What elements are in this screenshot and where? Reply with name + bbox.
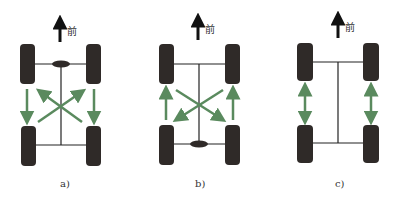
front-label: 前 [345,19,355,34]
rotation-diagram-c [260,0,397,201]
front-label: 前 [67,23,77,38]
caption-b: b) [195,178,205,189]
rotation-diagram-a [0,0,132,201]
caption-c: c) [335,178,345,189]
caption-a: a) [60,178,70,189]
diagram-a: 前 a) [0,0,132,201]
diagram-c: 前 c) [260,0,392,201]
rotation-diagram-b [130,0,262,201]
diagram-b: 前 b) [130,0,262,201]
front-label: 前 [205,21,215,36]
